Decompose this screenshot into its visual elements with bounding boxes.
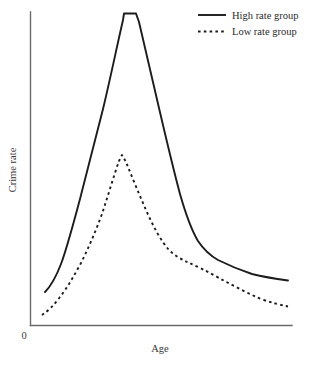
chart-canvas: High rate group Low rate group Crime rat… <box>0 0 310 365</box>
series-line-high-rate-group <box>45 14 288 293</box>
origin-label: 0 <box>21 330 26 341</box>
legend-label-low-rate-group: Low rate group <box>232 26 297 37</box>
legend-label-high-rate-group: High rate group <box>232 10 298 21</box>
y-axis-label: Crime rate <box>7 147 18 192</box>
series-line-low-rate-group <box>42 155 288 315</box>
x-axis-label: Age <box>151 343 169 354</box>
crime-rate-age-chart: High rate group Low rate group Crime rat… <box>0 0 310 365</box>
